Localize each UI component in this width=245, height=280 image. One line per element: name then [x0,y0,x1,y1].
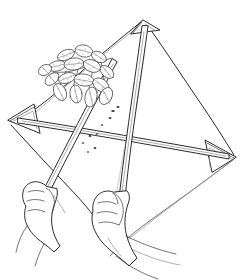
illustration-canvas [0,0,245,280]
left-hand [16,182,60,266]
beating-sheet-illustration [0,0,245,280]
